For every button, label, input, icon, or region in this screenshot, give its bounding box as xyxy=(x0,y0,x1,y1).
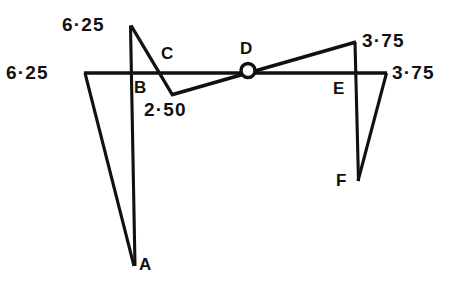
label-point-e: E xyxy=(333,80,345,97)
label-point-f: F xyxy=(336,172,347,189)
segment-right-slant-to-f xyxy=(358,73,387,181)
label-mid-low-value: 2·50 xyxy=(144,100,187,119)
label-point-d: D xyxy=(240,40,253,57)
label-point-c: C xyxy=(161,45,174,62)
label-left-peak-value: 6·25 xyxy=(62,15,105,34)
label-left-baseline-value: 6·25 xyxy=(6,63,49,82)
label-right-peak-value: 3·75 xyxy=(362,31,405,50)
segment-left-vertical-to-a xyxy=(131,26,136,267)
label-point-b: B xyxy=(134,79,147,96)
segment-right-vertical-to-f xyxy=(355,42,359,181)
diagram-figure: 6·25 6·25 2·50 3·75 3·75 A B C D E F xyxy=(0,0,463,286)
segment-trough-to-right-peak xyxy=(171,42,356,95)
segment-left-slant-to-a xyxy=(85,73,134,266)
node-d-marker-icon xyxy=(241,64,255,78)
label-point-a: A xyxy=(139,256,152,273)
label-right-baseline-value: 3·75 xyxy=(392,63,435,82)
